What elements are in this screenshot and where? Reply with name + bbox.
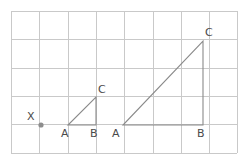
geometry-diagram: ABCABCX — [0, 0, 239, 161]
triangle-large-triangle — [123, 41, 203, 125]
figure-canvas: ABCABCX — [0, 0, 239, 161]
point-marker-x — [38, 122, 43, 127]
triangles-group — [68, 41, 203, 125]
triangle-small-triangle — [68, 97, 96, 125]
vertex-label-c-small-triangle: C — [98, 83, 106, 96]
points-group — [38, 122, 43, 127]
vertex-label-a-large-triangle: A — [112, 127, 120, 140]
point-label-x: X — [27, 110, 35, 123]
vertex-label-b-small-triangle: B — [90, 127, 98, 140]
vertex-labels-group: ABCABCX — [27, 26, 213, 140]
vertex-label-c-large-triangle: C — [205, 26, 213, 39]
vertex-label-b-large-triangle: B — [197, 127, 205, 140]
vertex-label-a-small-triangle: A — [61, 127, 69, 140]
